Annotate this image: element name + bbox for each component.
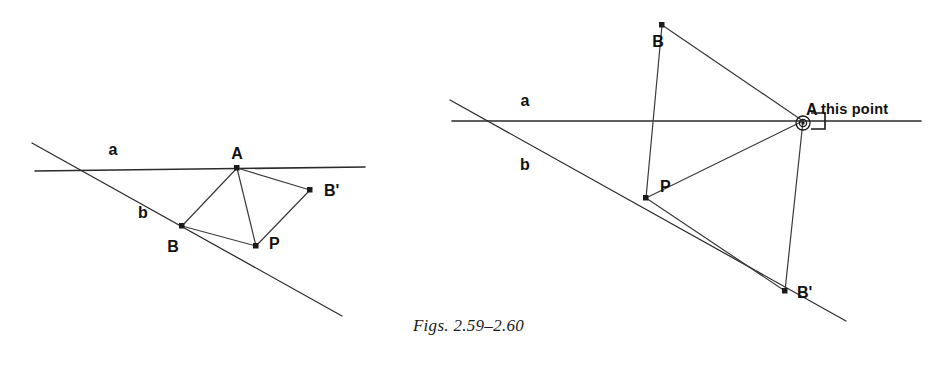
left-segment-B-P — [182, 226, 256, 246]
right-segment-B-P — [646, 25, 662, 198]
left-figure-group: a b A B P B' — [32, 141, 365, 316]
left-label-line-b: b — [138, 204, 148, 221]
right-annotation-this-point: this point — [821, 101, 888, 117]
right-line-b — [450, 100, 846, 321]
left-segment-A-B — [182, 168, 237, 226]
left-label-point-P: P — [269, 235, 280, 252]
left-point-B — [179, 223, 185, 229]
right-label-point-P: P — [660, 178, 671, 195]
left-label-point-A: A — [231, 145, 243, 162]
left-line-a — [35, 167, 365, 171]
right-point-Bprime — [782, 288, 788, 294]
right-label-line-b: b — [520, 156, 530, 173]
left-point-A — [234, 165, 240, 171]
right-label-point-B: B — [652, 33, 664, 50]
left-segment-A-Bprime — [237, 168, 310, 190]
left-point-P — [253, 243, 259, 249]
right-point-B — [659, 22, 665, 28]
right-point-P — [643, 195, 649, 201]
figure-page: a b A B P B' — [0, 0, 937, 369]
right-segment-B-A — [662, 25, 803, 121]
left-label-point-B: B — [167, 238, 179, 255]
right-figure-group: a b A B P B' this point — [450, 22, 921, 321]
right-point-A — [802, 122, 805, 125]
figure-caption: Figs. 2.59–2.60 — [0, 316, 937, 336]
right-label-point-Bprime: B' — [797, 284, 812, 301]
right-segment-P-Bprime — [646, 198, 785, 291]
right-label-point-A: A — [806, 101, 818, 118]
right-segment-A-Bprime — [785, 121, 803, 291]
left-label-point-Bprime: B' — [324, 182, 339, 199]
left-segment-A-P — [237, 168, 256, 246]
geometry-figures-canvas: a b A B P B' — [0, 0, 937, 369]
left-label-line-a: a — [109, 141, 118, 158]
left-segment-P-Bprime — [256, 190, 310, 246]
left-point-Bprime — [307, 187, 313, 193]
right-label-line-a: a — [521, 92, 530, 109]
